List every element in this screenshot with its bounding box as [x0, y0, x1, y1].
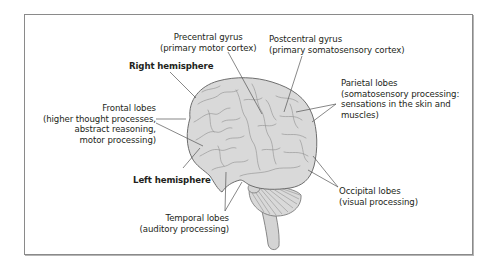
- label-left-hemisphere: Left hemisphere: [133, 175, 211, 186]
- label-detail: (auditory processing): [140, 224, 229, 235]
- label-occipital-lobes: Occipital lobes (visual processing): [339, 186, 418, 207]
- label-detail: (primary somatosensory cortex): [269, 45, 404, 56]
- label-title: Left hemisphere: [133, 175, 211, 186]
- label-title: Postcentral gyrus: [269, 34, 404, 45]
- label-title: Frontal lobes: [43, 103, 156, 114]
- label-parietal-lobes: Parietal lobes (somatosensory processing…: [341, 78, 459, 120]
- label-detail: (visual processing): [339, 197, 418, 208]
- label-precentral-gyrus: Precentral gyrus (primary motor cortex): [160, 32, 257, 53]
- label-title: Temporal lobes: [140, 213, 229, 224]
- label-detail: muscles): [341, 110, 459, 121]
- label-detail: (primary motor cortex): [160, 43, 257, 54]
- label-detail: motor processing): [43, 135, 156, 146]
- label-right-hemisphere: Right hemisphere: [129, 61, 213, 72]
- label-detail: (somatosensory processing:: [341, 89, 459, 100]
- label-title: Occipital lobes: [339, 186, 418, 197]
- label-title: Precentral gyrus: [160, 32, 257, 43]
- label-temporal-lobes: Temporal lobes (auditory processing): [140, 213, 229, 234]
- label-detail: abstract reasoning,: [43, 124, 156, 135]
- label-frontal-lobes: Frontal lobes (higher thought processes,…: [43, 103, 156, 145]
- label-title: Parietal lobes: [341, 78, 459, 89]
- label-postcentral-gyrus: Postcentral gyrus (primary somatosensory…: [269, 34, 404, 55]
- label-detail: (higher thought processes,: [43, 114, 156, 125]
- label-title: Right hemisphere: [129, 61, 213, 72]
- label-detail: sensations in the skin and: [341, 99, 459, 110]
